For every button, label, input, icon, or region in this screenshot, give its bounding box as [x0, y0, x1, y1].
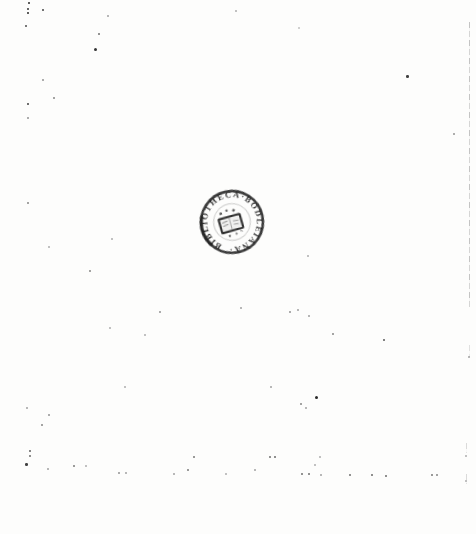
scan-speck	[371, 474, 373, 476]
scan-speck	[25, 25, 27, 27]
open-book-icon	[216, 206, 245, 239]
scan-speck	[29, 455, 31, 457]
scan-speck	[319, 456, 321, 458]
scan-speck	[187, 469, 189, 471]
scan-speck	[406, 75, 409, 78]
scan-speck	[26, 407, 28, 409]
scan-speck	[235, 10, 237, 12]
scan-speck	[47, 468, 49, 470]
scan-speck	[85, 465, 87, 467]
scan-speck	[269, 456, 271, 458]
scan-speck	[53, 97, 55, 99]
scan-speck	[27, 12, 29, 14]
scan-speck	[465, 480, 467, 482]
scan-speck	[159, 311, 161, 313]
scan-speck	[349, 474, 351, 476]
scan-speck	[144, 334, 146, 336]
scan-speck	[320, 474, 322, 476]
scan-speck	[314, 464, 316, 466]
scan-speck	[27, 103, 29, 105]
scan-speck	[385, 475, 387, 477]
scan-speck	[254, 469, 256, 471]
scan-speck	[111, 238, 113, 240]
scan-speck	[48, 246, 50, 248]
scan-speck	[453, 133, 455, 135]
scan-speck	[89, 270, 91, 272]
scan-speck	[27, 8, 29, 10]
scan-speck	[240, 307, 242, 309]
scan-speck	[298, 27, 300, 29]
scan-speck	[436, 474, 438, 476]
scan-speck	[124, 386, 126, 388]
scan-speck	[118, 472, 120, 474]
scan-speck	[98, 33, 100, 35]
scan-speck	[225, 473, 227, 475]
scan-speck	[42, 9, 44, 11]
scan-speck	[300, 403, 302, 405]
scan-speck	[332, 333, 334, 335]
scanner-edge-line	[466, 474, 467, 484]
scan-speck	[28, 2, 30, 4]
scan-speck	[297, 309, 299, 311]
scan-speck	[274, 456, 276, 458]
scanner-edge-line	[469, 345, 470, 357]
scan-speck	[465, 455, 467, 457]
scan-speck	[109, 327, 111, 329]
scan-speck	[41, 424, 43, 426]
scanner-edge-line	[469, 22, 470, 307]
library-stamp: BIBLIOTHECA·BODLEIANA·	[192, 182, 273, 263]
scanner-edge-line	[466, 443, 467, 453]
scan-speck	[301, 473, 303, 475]
scan-speck	[308, 315, 310, 317]
scan-speck	[193, 456, 195, 458]
scan-speck	[29, 450, 31, 452]
stamp-seal: BIBLIOTHECA·BODLEIANA·	[192, 182, 273, 263]
scan-speck	[308, 473, 310, 475]
scan-speck	[289, 311, 291, 313]
scan-speck	[125, 472, 127, 474]
scan-speck	[107, 15, 109, 17]
scan-speck	[270, 386, 272, 388]
scan-speck	[383, 339, 385, 341]
scan-speck	[25, 463, 28, 466]
scan-speck	[42, 79, 44, 81]
scan-speck	[73, 465, 75, 467]
scanned-page: BIBLIOTHECA·BODLEIANA·	[0, 0, 476, 534]
scan-speck	[305, 407, 307, 409]
scan-speck	[307, 255, 309, 257]
scan-speck	[27, 202, 29, 204]
scan-speck	[431, 474, 433, 476]
scan-speck	[468, 356, 470, 358]
scan-speck	[27, 117, 29, 119]
scan-speck	[315, 396, 318, 399]
scan-speck	[173, 473, 175, 475]
scan-speck	[94, 48, 97, 51]
scan-speck	[48, 414, 50, 416]
